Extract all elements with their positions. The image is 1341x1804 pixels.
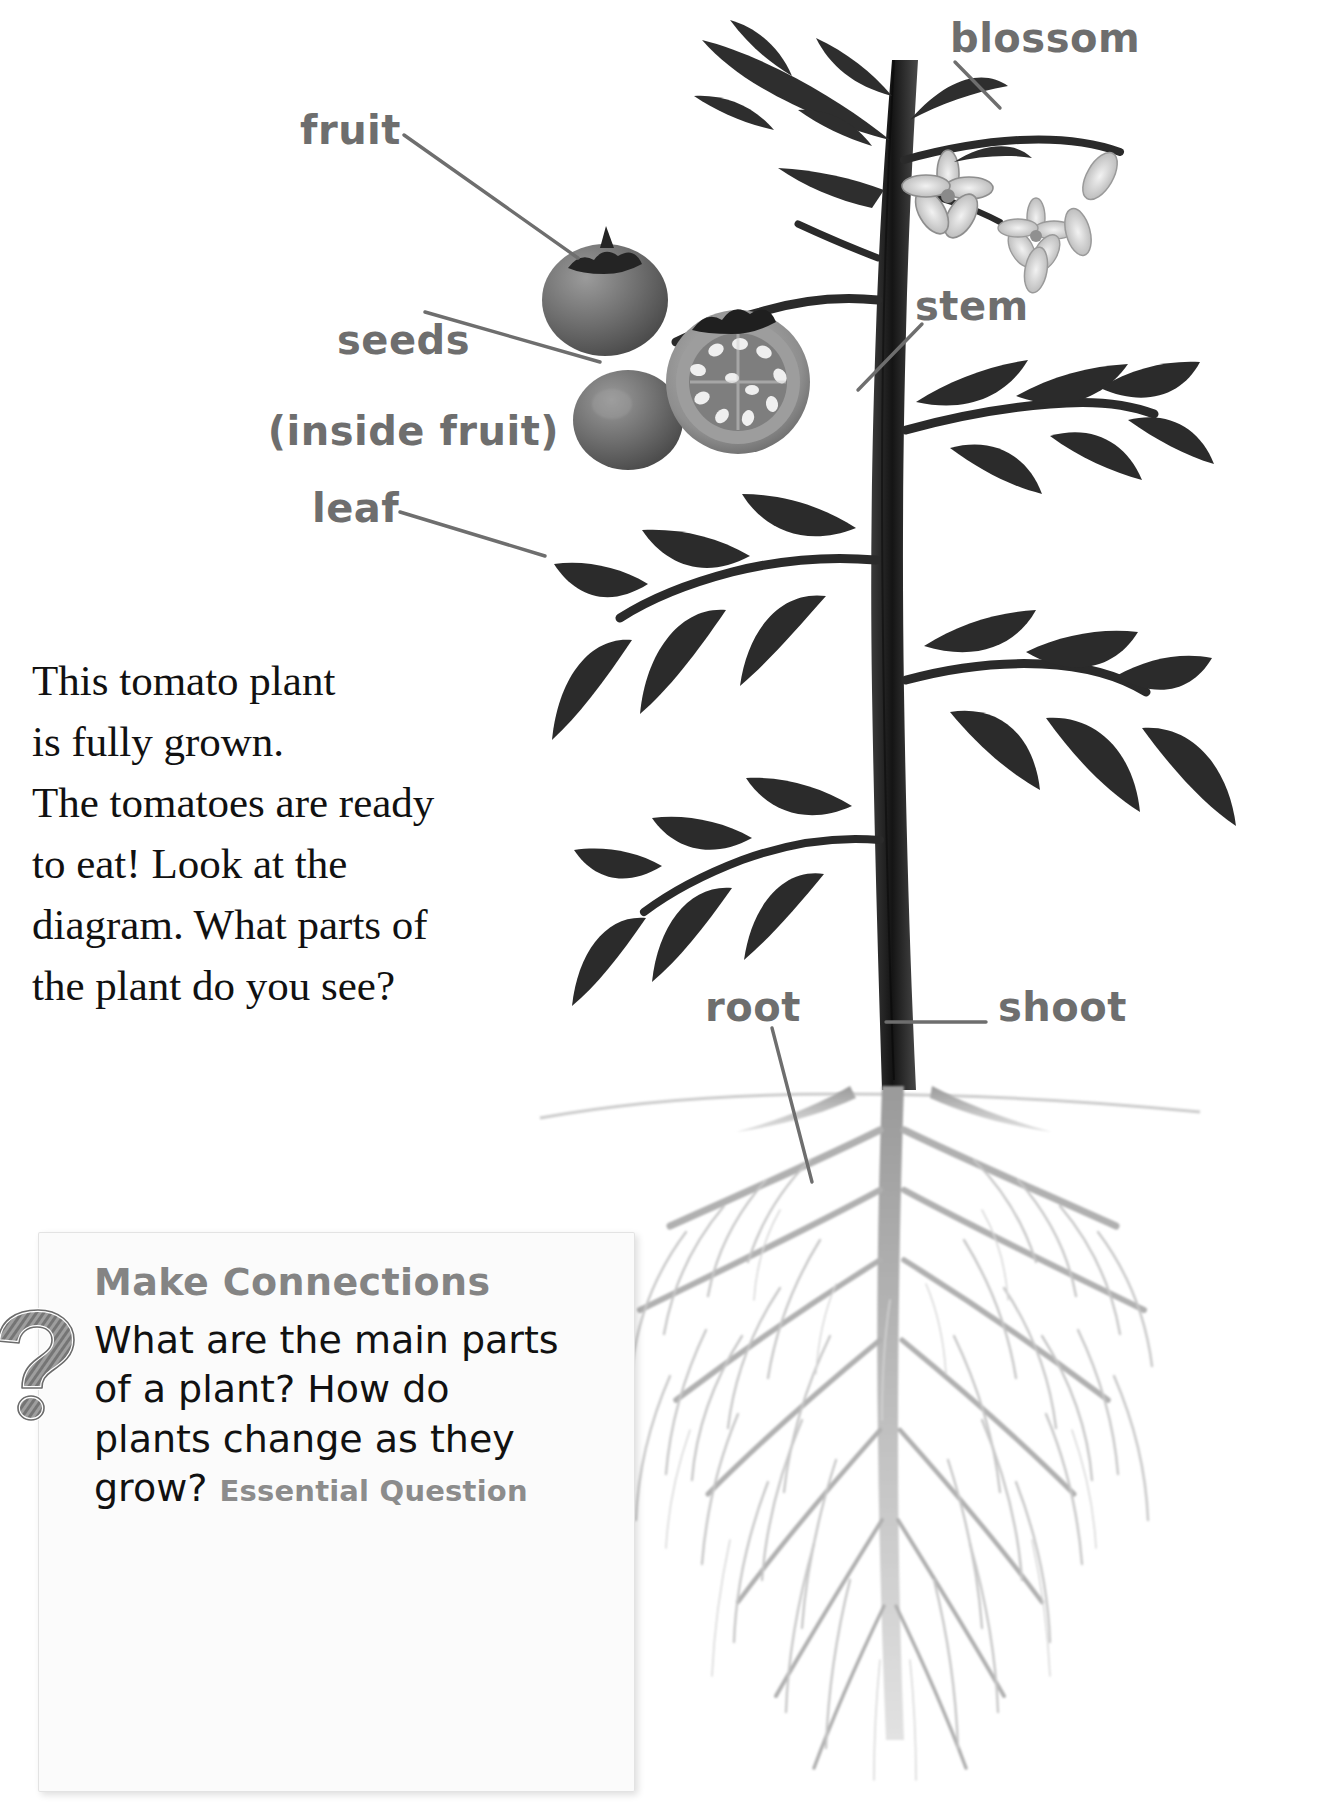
body-line-4: to eat! Look at the [32,833,592,894]
make-connections-callout: Make Connections What are the main parts… [38,1232,635,1792]
label-leaf: leaf [312,486,399,532]
label-blossom: blossom [950,16,1140,62]
question-line-3: plants change as they [94,1415,614,1464]
body-line-6: the plant do you see? [32,955,592,1016]
left-lower-leaves [572,778,880,1006]
plant-stem-group [871,60,918,1090]
body-line-5: diagram. What parts of [32,894,592,955]
question-line-1: What are the main parts [94,1316,614,1365]
question-line-2: of a plant? How do [94,1365,614,1414]
make-connections-content: Make Connections What are the main parts… [94,1260,614,1514]
make-connections-heading: Make Connections [94,1260,614,1304]
label-seeds: seeds (inside fruit) [210,272,470,500]
blossom-branch [902,77,1124,294]
root-system [632,1086,1152,1780]
label-seeds-line2: (inside fruit) [268,408,559,454]
body-line-3: The tomatoes are ready [32,772,592,833]
body-line-1: This tomato plant [32,650,592,711]
tomato-fruit-cluster [542,226,810,470]
tomato-slice [666,309,810,454]
label-fruit: fruit [300,108,401,154]
right-lower-leaves [906,610,1236,826]
body-line-2: is fully grown. [32,711,592,772]
textbook-page: fruit blossom seeds (inside fruit) stem … [0,0,1341,1804]
label-seeds-line1: seeds [337,317,470,363]
label-shoot: shoot [998,985,1127,1031]
label-stem: stem [915,284,1029,330]
left-mid-leaves [552,494,876,740]
label-root: root [705,985,801,1031]
blossom-flowers [902,147,1124,295]
body-paragraph: This tomato plant is fully grown. The to… [32,650,592,1016]
make-connections-question: What are the main parts of a plant? How … [94,1316,614,1514]
essential-question-tag: Essential Question [220,1474,528,1508]
question-mark-icon [0,1304,86,1424]
question-line-4: grow? [94,1466,220,1510]
right-mid-leaves [906,360,1214,494]
soil-line [540,1094,1200,1118]
upper-leaves-left [694,20,892,208]
